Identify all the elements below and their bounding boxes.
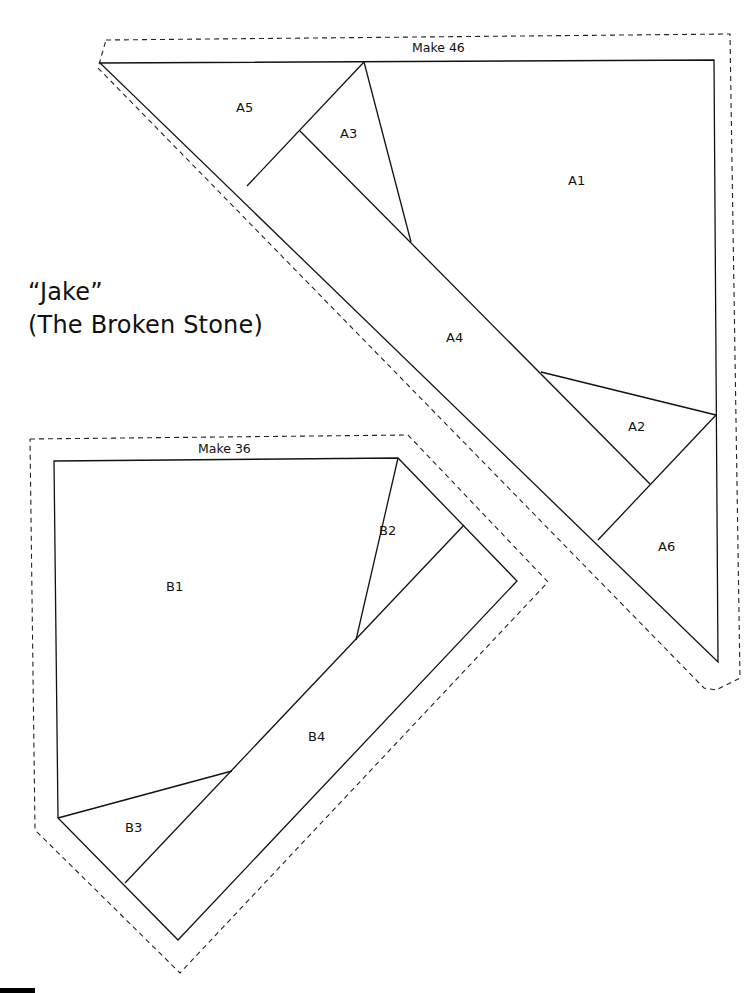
template-b-make-label: Make 36 (198, 441, 251, 456)
piece-label-a4: A4 (446, 330, 463, 345)
template-a-seam-a3-a1 (364, 62, 411, 242)
template-a-seam-a5-a4 (247, 62, 364, 186)
template-a-outline (100, 60, 718, 662)
template-b: Make 36 B1 B2 B4 B3 (30, 435, 548, 973)
piece-label-b2: B2 (379, 523, 396, 538)
piece-label-a6: A6 (658, 539, 675, 554)
template-a-seam-a2-a1 (541, 372, 716, 415)
page-edge-mark (0, 988, 35, 993)
piece-label-b3: B3 (125, 820, 142, 835)
piece-label-a1: A1 (568, 173, 585, 188)
template-b-seam-allowance (30, 435, 548, 973)
piece-label-a5: A5 (236, 100, 253, 115)
piece-label-a3: A3 (340, 126, 357, 141)
piece-label-b1: B1 (166, 579, 183, 594)
template-b-outline (54, 458, 517, 940)
pattern-title: “Jake” (The Broken Stone) (28, 276, 263, 342)
piece-label-b4: B4 (308, 729, 325, 744)
template-a-seam-a6-a2 (598, 415, 716, 540)
piece-label-a2: A2 (628, 419, 645, 434)
template-a-make-label: Make 46 (412, 40, 465, 55)
pattern-name: “Jake” (28, 276, 263, 309)
template-b-seam-b2-b1 (356, 458, 398, 640)
template-b-seam-b3-b1 (58, 771, 232, 818)
template-a: Make 46 A5 A3 A1 A4 A2 A6 (98, 34, 740, 690)
pattern-subtitle: (The Broken Stone) (28, 309, 263, 342)
template-a-seam-allowance (98, 34, 740, 690)
pattern-canvas: Make 46 A5 A3 A1 A4 A2 A6 Make 36 B1 B2 … (0, 0, 747, 993)
